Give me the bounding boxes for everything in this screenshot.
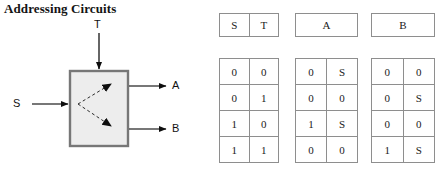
addressing-circuits-figure: Addressing Circuits — [0, 0, 441, 174]
table-row: 1 1 — [220, 137, 279, 163]
cell: 0 — [220, 85, 250, 111]
cell: 0 — [403, 59, 435, 85]
table-b-header: B — [371, 13, 435, 37]
table-a-header-cell: A — [296, 14, 358, 37]
cell: 0 — [249, 59, 279, 85]
table-row: 1 0 — [220, 111, 279, 137]
cell: 1 — [372, 137, 404, 163]
block-diagram: T S A B — [0, 14, 214, 174]
cell: 0 — [327, 85, 358, 111]
table-a-header: A — [295, 13, 358, 37]
table-b-body: 0 0 0 S 0 0 1 S — [371, 58, 435, 163]
table-row: 0 0 — [372, 111, 435, 137]
table-row: 0 S — [296, 59, 358, 85]
diagram-label-b: B — [172, 122, 179, 134]
table-a-body: 0 S 0 0 1 S 0 0 — [295, 58, 358, 163]
cell: 1 — [249, 137, 279, 163]
table-st-header-cell-s: S — [220, 14, 250, 37]
table-row: 0 1 — [220, 85, 279, 111]
diagram-label-t: T — [94, 18, 101, 30]
table-row: 1 S — [372, 137, 435, 163]
table-row: S T — [220, 14, 279, 37]
cell: S — [403, 85, 435, 111]
table-row: 0 0 — [220, 59, 279, 85]
table-b-header-cell: B — [372, 14, 435, 37]
cell: 0 — [296, 59, 327, 85]
cell: 0 — [220, 59, 250, 85]
cell: 0 — [296, 137, 327, 163]
table-st-header: S T — [219, 13, 279, 37]
diagram-label-s: S — [13, 97, 20, 109]
block-diagram-canvas — [0, 14, 214, 174]
cell: 0 — [249, 111, 279, 137]
cell: S — [327, 59, 358, 85]
cell: 0 — [296, 85, 327, 111]
cell: 1 — [220, 137, 250, 163]
table-row: A — [296, 14, 358, 37]
cell: 0 — [403, 111, 435, 137]
circuit-block — [70, 71, 128, 146]
table-row: 1 S — [296, 111, 358, 137]
table-row: 0 0 — [296, 137, 358, 163]
cell: 1 — [220, 111, 250, 137]
table-row: B — [372, 14, 435, 37]
cell: S — [327, 111, 358, 137]
cell: 1 — [296, 111, 327, 137]
cell: 0 — [372, 59, 404, 85]
table-st-header-cell-t: T — [249, 14, 279, 37]
cell: 0 — [372, 85, 404, 111]
table-st-body: 0 0 0 1 1 0 1 1 — [219, 58, 279, 163]
cell: 1 — [249, 85, 279, 111]
table-row: 0 0 — [296, 85, 358, 111]
cell: S — [403, 137, 435, 163]
cell: 0 — [327, 137, 358, 163]
cell: 0 — [372, 111, 404, 137]
diagram-label-a: A — [172, 79, 179, 91]
table-row: 0 S — [372, 85, 435, 111]
table-row: 0 0 — [372, 59, 435, 85]
